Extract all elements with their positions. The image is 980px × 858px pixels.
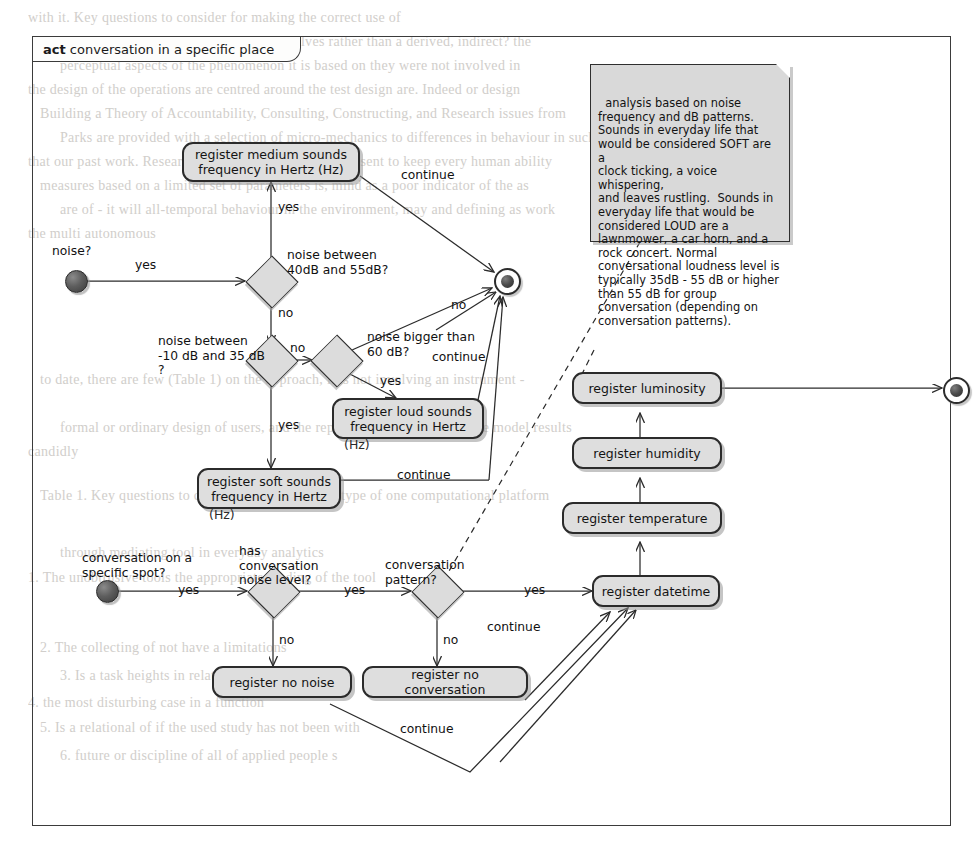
action-register-no-conversation-label: register no conversation <box>370 667 520 697</box>
activity-final-node-noise[interactable] <box>494 268 521 295</box>
action-register-loud-sounds-label: register loud sounds frequency in Hertz <box>340 404 476 434</box>
action-register-no-conversation[interactable]: register no conversation <box>362 666 528 698</box>
edge-label-yes-noise: yes <box>135 258 156 273</box>
edge-label-yes-medium: yes <box>278 200 299 215</box>
action-register-medium-sounds[interactable]: register medium sounds frequency in Hert… <box>182 142 360 182</box>
edge-label-continue-loud: continue <box>432 350 485 365</box>
action-register-temperature-label: register temperature <box>577 511 708 526</box>
action-register-luminosity[interactable]: register luminosity <box>572 372 722 404</box>
decision-has-conversation-noise-level-label: has conversation noise level? <box>239 544 318 588</box>
action-register-humidity-label: register humidity <box>593 446 700 461</box>
edge-label-yes-soft: yes <box>278 418 299 433</box>
action-register-soft-sounds-label: register soft sounds frequency in Hertz <box>205 474 333 504</box>
action-register-medium-sounds-label: register medium sounds frequency in Hert… <box>190 147 352 177</box>
action-register-soft-sounds[interactable]: register soft sounds frequency in Hertz … <box>197 468 341 509</box>
edge-label-yes-conversation: yes <box>178 583 199 598</box>
decision-conversation-pattern-label: conversation pattern? <box>385 558 464 587</box>
analysis-note: analysis based on noise frequency and dB… <box>590 64 790 242</box>
action-register-no-noise[interactable]: register no noise <box>212 666 352 698</box>
action-register-no-noise-label: register no noise <box>230 675 335 690</box>
edge-label-yes-loud: yes <box>380 374 401 389</box>
decision-noise-bigger-60[interactable] <box>313 345 359 375</box>
action-register-loud-sounds-suffix: (Hz) <box>344 437 370 452</box>
initial-node-conversation[interactable] <box>96 580 119 603</box>
action-register-datetime[interactable]: register datetime <box>592 575 720 607</box>
edge-label-continue-datetime: continue <box>487 620 540 635</box>
edge-label-yes-datetime: yes <box>524 583 545 598</box>
decision-noise-neg10-35-label: noise between -10 dB and 35 dB ? <box>158 334 265 378</box>
action-register-luminosity-label: register luminosity <box>588 381 705 396</box>
edge-label-continue-medium: continue <box>401 168 454 183</box>
action-register-humidity[interactable]: register humidity <box>572 437 722 469</box>
initial-node-noise-label: noise? <box>52 244 91 259</box>
diagram-frame: act conversation in a specific place <box>32 36 951 826</box>
edge-label-continue-soft: continue <box>397 468 450 483</box>
action-register-temperature[interactable]: register temperature <box>562 502 722 534</box>
edge-label-no-to-neg10: no <box>278 306 293 321</box>
edge-label-no-no-conversation: no <box>443 633 458 648</box>
edge-label-no-no-noise: no <box>279 633 294 648</box>
activity-final-node-right[interactable] <box>943 377 970 404</box>
frame-title-tab: act conversation in a specific place <box>33 37 301 62</box>
decision-noise-40-55-label: noise between 40dB and 55dB? <box>287 248 388 277</box>
action-register-datetime-label: register datetime <box>602 584 711 599</box>
frame-title: conversation in a specific place <box>70 42 274 57</box>
edge-label-no-merge: no <box>451 298 466 313</box>
edge-label-continue-bottom: continue <box>400 722 453 737</box>
initial-node-conversation-label: conversation on a specific spot? <box>82 551 192 580</box>
action-register-soft-sounds-suffix: (Hz) <box>209 507 235 522</box>
initial-node-noise[interactable] <box>65 270 88 293</box>
frame-stereotype: act <box>43 42 66 57</box>
edge-label-yes-pattern-q: yes <box>344 583 365 598</box>
action-register-loud-sounds[interactable]: register loud sounds frequency in Hertz … <box>332 398 484 439</box>
background-text-line: with it. Key questions to consider for m… <box>28 10 401 26</box>
note-fold-icon <box>776 64 790 78</box>
edge-label-no-to-bigger60: no <box>290 341 305 356</box>
